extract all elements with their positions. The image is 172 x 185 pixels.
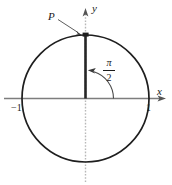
angle-numerator: π — [102, 58, 116, 69]
figure-canvas — [0, 0, 172, 185]
angle-denominator: 2 — [102, 72, 116, 85]
unit-circle-figure: P y x −1 1 π 2 — [0, 0, 172, 185]
x-tick-label-negative-one: −1 — [11, 103, 22, 113]
x-tick-label-one: 1 — [146, 103, 151, 113]
y-axis-label: y — [92, 3, 97, 14]
point-P-leader-line — [58, 20, 78, 33]
fraction-bar — [103, 70, 115, 71]
point-P-marker — [83, 33, 89, 37]
angle-value-label: π 2 — [102, 58, 116, 85]
x-axis-label: x — [157, 86, 162, 97]
angle-arc-arrowhead — [88, 68, 96, 74]
point-P-label: P — [48, 11, 55, 22]
